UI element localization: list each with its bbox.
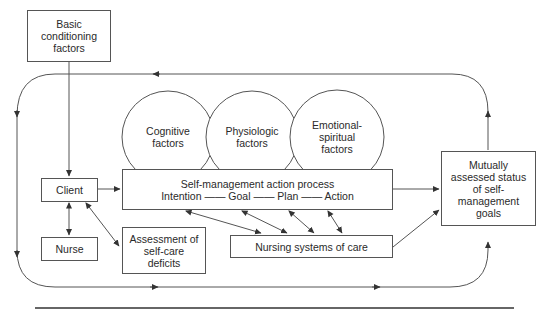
physiologic-factors-label: Physiologic factors	[217, 125, 287, 149]
nursing-systems-label: Nursing systems of care	[255, 241, 368, 253]
cognitive-factors-label: Cognitive factors	[133, 125, 203, 149]
basic-conditioning-factors-box: Basic conditioning factors	[27, 10, 111, 62]
basic-conditioning-label: Basic conditioning factors	[28, 18, 110, 54]
nursing-systems-box: Nursing systems of care	[230, 235, 393, 258]
client-box: Client	[41, 178, 98, 202]
self-management-steps: Intention —— Goal —— Plan —— Action	[161, 190, 354, 202]
nurse-label: Nurse	[55, 243, 83, 255]
self-management-title: Self-management action process	[181, 178, 335, 190]
nurse-box: Nurse	[41, 237, 98, 261]
mutually-assessed-box: Mutually assessed status of self-managem…	[441, 151, 536, 226]
self-management-action-process-box: Self-management action process Intention…	[122, 169, 393, 210]
assessment-box: Assessment of self-care deficits	[122, 227, 206, 274]
mutually-assessed-label: Mutually assessed status of self-managem…	[448, 159, 529, 219]
client-label: Client	[56, 184, 83, 196]
assessment-label: Assessment of self-care deficits	[129, 233, 199, 269]
emotional-spiritual-factors-label: Emotional-spiritual factors	[303, 119, 371, 155]
